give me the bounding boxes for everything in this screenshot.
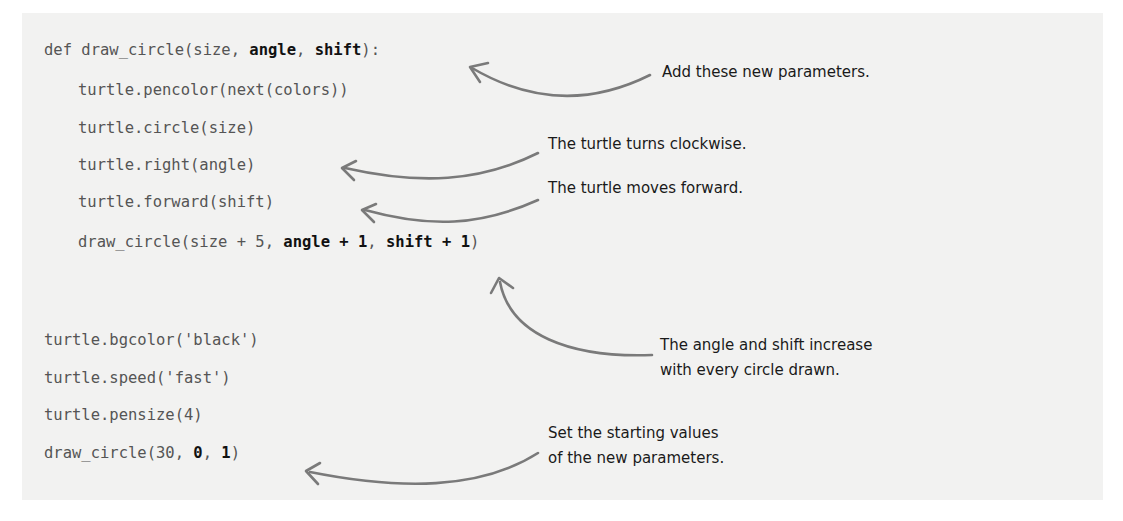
- annotation-arrows: [0, 0, 1123, 521]
- arrow-increase: [500, 282, 652, 355]
- arrow-new-params: [472, 68, 650, 96]
- arrow-turns: [345, 153, 538, 178]
- arrow-moves: [365, 200, 538, 222]
- arrow-starting: [310, 453, 538, 484]
